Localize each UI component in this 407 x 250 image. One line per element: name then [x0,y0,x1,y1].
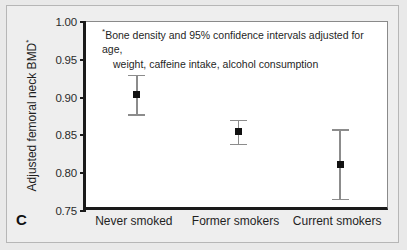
error-bar-lower-cap [230,144,247,146]
plot-frame: *Bone density and 95% confidence interva… [83,21,388,210]
figure-panel-c: Adjusted femoral neck BMD* *Bone density… [0,0,407,250]
data-point-marker[interactable] [337,161,344,168]
plot-area: *Bone density and 95% confidence interva… [86,22,387,207]
y-axis-tick: 0.95 [55,54,86,66]
error-bar-upper-cap [332,129,349,131]
panel-letter-label: C [16,211,27,228]
y-axis-tick-mark [80,97,86,99]
x-axis-category-label: Never smoked [95,214,172,228]
y-axis-title: Adjusted femoral neck BMD* [20,21,38,210]
y-axis-tick-mark [80,21,86,23]
y-axis-title-asterisk: * [24,40,33,43]
y-axis-tick: 0.80 [55,167,86,179]
y-axis-tick-label: 0.80 [55,167,80,179]
x-axis-category-label: Current smokers [293,214,382,228]
y-axis-tick-mark [80,210,86,212]
y-axis-tick-mark [80,59,86,61]
data-point-group[interactable] [229,22,249,211]
y-axis-title-text: Adjusted femoral neck BMD [25,43,39,192]
error-bar-upper-cap [230,120,247,122]
y-axis-tick-label: 0.95 [55,54,80,66]
y-axis-tick-label: 1.00 [55,16,80,28]
error-bar-lower-cap [128,114,145,116]
y-axis-tick: 1.00 [55,16,86,28]
data-point-marker[interactable] [235,128,242,135]
x-axis-category-label: Former smokers [192,214,279,228]
y-axis-tick-label: 0.75 [55,205,80,217]
y-axis-tick-mark [80,172,86,174]
y-axis-tick: 0.75 [55,205,86,217]
y-axis-tick: 0.85 [55,129,86,141]
error-bar-lower-cap [332,199,349,201]
error-bar-upper-cap [128,75,145,77]
data-point-group[interactable] [330,22,350,211]
data-point-marker[interactable] [133,91,140,98]
y-axis-tick: 0.90 [55,92,86,104]
data-point-group[interactable] [127,22,147,211]
y-axis-tick-label: 0.85 [55,129,80,141]
y-axis-tick-label: 0.90 [55,92,80,104]
y-axis-tick-mark [80,134,86,136]
